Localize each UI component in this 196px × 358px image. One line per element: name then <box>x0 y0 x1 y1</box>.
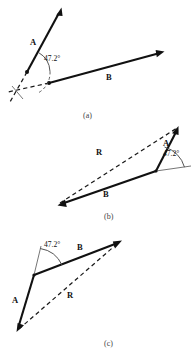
panel-c-reference-ray <box>34 246 41 275</box>
panel-a-vector-b-baseline-dashed <box>8 83 49 92</box>
panel-b-reference-ray <box>156 166 191 171</box>
panel-a-caption: (a) <box>83 112 92 120</box>
panel-b-graphics <box>58 126 192 207</box>
panel-c-vector-a-label: A <box>12 296 18 305</box>
panel-b-angle-label: 47.2° <box>163 150 179 158</box>
panel-a-vector-a-arrowhead <box>56 8 62 17</box>
figure-canvas <box>0 0 196 358</box>
panel-a-vector-a-tail-dot <box>25 70 29 74</box>
panel-b-vector-a-label: A <box>163 139 169 148</box>
panel-b-vector-b-shaft <box>64 171 156 203</box>
panel-a-vector-b-shaft <box>49 54 158 84</box>
panel-c-resultant-label: R <box>67 291 73 300</box>
panel-b-caption: (b) <box>104 213 113 221</box>
panel-b-vector-b-arrowhead <box>58 200 67 207</box>
panel-a-vector-b-arrowhead <box>156 50 165 57</box>
panel-b-vertex-dot <box>154 169 157 172</box>
panel-c-vector-b-arrowhead <box>113 241 122 249</box>
vector-addition-figure: A B 47.2° (a) A B R 47.2° (b) A B R 47.2… <box>0 0 196 358</box>
panel-c-vector-b-label: B <box>77 243 83 252</box>
panel-a-graphics <box>8 8 165 103</box>
panel-a-vector-b-label: B <box>106 73 112 82</box>
panel-a-vector-a-label: A <box>30 38 36 47</box>
panel-c-angle-label: 47.2° <box>44 241 60 249</box>
panel-c-angle-arc <box>40 249 62 266</box>
panel-c-resultant-shaft-dashed <box>19 243 118 329</box>
panel-a-angle-arc-dashed <box>38 72 50 94</box>
panel-a-angle-label: 47.2° <box>44 55 60 63</box>
panel-c-corner-dot <box>32 273 35 276</box>
panel-b-resultant-label: R <box>96 148 102 157</box>
panel-c-graphics <box>17 241 123 333</box>
panel-c-vector-a-arrowhead <box>17 323 25 332</box>
panel-c-caption: (c) <box>104 340 113 348</box>
panel-b-vector-b-label: B <box>103 190 109 199</box>
